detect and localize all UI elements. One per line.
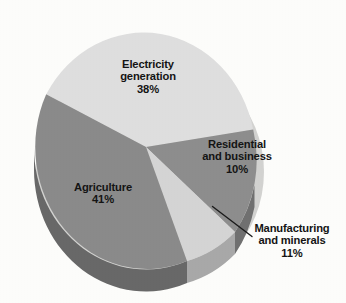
slice-label-agriculture-percent: 41% bbox=[44, 193, 162, 206]
pie-chart-screenshot: Electricity generation 38% Residential a… bbox=[0, 0, 346, 303]
slice-label-electricity-text: Electricity generation bbox=[120, 58, 176, 83]
slice-label-manufacturing-percent: 11% bbox=[238, 247, 346, 260]
slice-label-agriculture: Agriculture 41% bbox=[44, 168, 162, 218]
slice-label-electricity-percent: 38% bbox=[88, 83, 208, 96]
slice-label-residential-and-business: Residential and business 10% bbox=[178, 125, 296, 188]
slice-label-agriculture-text: Agriculture bbox=[74, 181, 132, 193]
slice-label-residential-text: Residential and business bbox=[202, 138, 272, 163]
slice-label-manufacturing-text: Manufacturing and minerals bbox=[254, 222, 329, 247]
slice-label-manufacturing-and-minerals: Manufacturing and minerals 11% bbox=[238, 209, 346, 272]
slice-label-residential-percent: 10% bbox=[178, 163, 296, 176]
slice-label-electricity-generation: Electricity generation 38% bbox=[88, 45, 208, 108]
pie-chart: Electricity generation 38% Residential a… bbox=[0, 0, 346, 303]
